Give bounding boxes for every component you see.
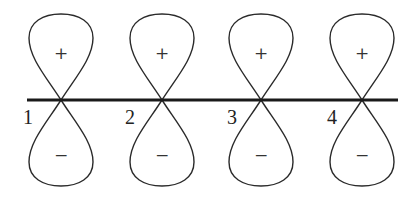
negative-lobe [229,100,293,186]
plus-sign: + [355,43,369,63]
plus-sign: + [54,43,68,63]
minus-sign: − [355,145,369,165]
minus-sign: − [54,145,68,165]
atom-number-label: 2 [125,106,135,128]
negative-lobe [29,100,93,186]
minus-sign: − [254,145,268,165]
p-orbital-diagram: +−1+−2+−3+−4 [0,0,416,198]
plus-sign: + [155,43,169,63]
plus-sign: + [254,43,268,63]
atom-number-label: 3 [227,106,237,128]
negative-lobe [130,100,194,186]
minus-sign: − [155,145,169,165]
atom-number-label: 1 [23,106,33,128]
atom-number-label: 4 [327,106,337,128]
negative-lobe [330,100,394,186]
